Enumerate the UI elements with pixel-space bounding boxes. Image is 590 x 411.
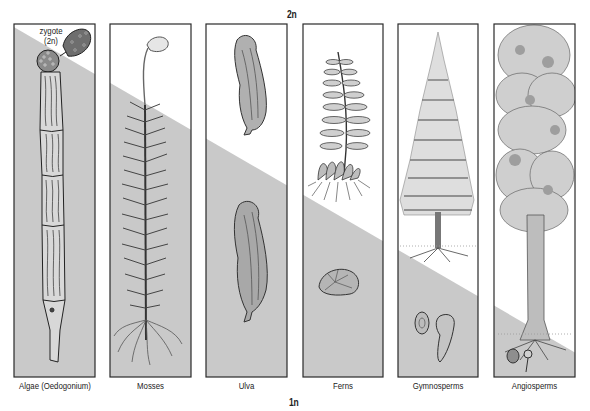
panel-label-ulva: Ulva [213, 380, 279, 391]
diploid-label-2n: 2n [287, 9, 297, 20]
panel-label-mosses: Mosses [117, 380, 183, 391]
ploidy-shading [14, 24, 575, 377]
zygote-callout: zygote (2n) [31, 26, 72, 46]
panel-label-ferns: Ferns [310, 380, 376, 391]
haploid-label-1n: 1n [289, 397, 299, 408]
alternation-of-generations-diagram: 2n 1n zygote (2n) Algae (Oedogonium) Mos… [0, 0, 590, 411]
panel-label-gymnosperms: Gymnosperms [405, 380, 471, 391]
diagram-canvas [0, 0, 590, 411]
panel-label-algae: Algae (Oedogonium) [13, 380, 97, 391]
panel-frames [14, 24, 575, 377]
zygote-callout-line2: (2n) [31, 36, 72, 46]
panel-label-angiosperms: Angiosperms [501, 380, 567, 391]
